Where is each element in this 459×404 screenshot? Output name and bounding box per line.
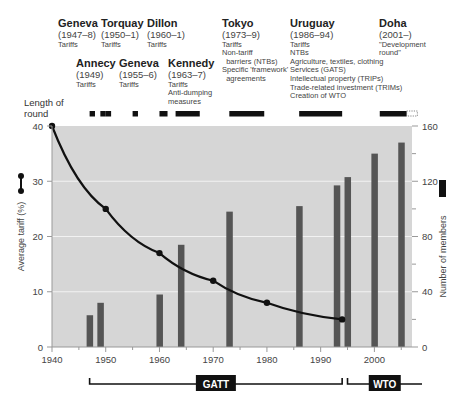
round-length-bar bbox=[106, 111, 111, 117]
member-bar bbox=[97, 303, 104, 347]
tariff-point bbox=[156, 250, 162, 256]
round-length-ongoing bbox=[407, 111, 418, 116]
round-length-bar bbox=[159, 111, 167, 117]
round-length-bar bbox=[229, 111, 264, 117]
member-bar bbox=[398, 143, 405, 347]
right-tick-label: 40 bbox=[422, 286, 433, 297]
member-bar bbox=[87, 315, 94, 347]
member-bar bbox=[296, 206, 303, 347]
tariff-legend-icon-dot bbox=[18, 188, 24, 194]
x-tick-label: 1990 bbox=[310, 354, 331, 365]
x-tick-label: 1970 bbox=[203, 354, 224, 365]
tariff-point bbox=[210, 278, 216, 284]
left-tick-label: 40 bbox=[32, 121, 43, 132]
x-tick-label: 1960 bbox=[149, 354, 170, 365]
tariff-point bbox=[103, 206, 109, 212]
org-label-wto: WTO bbox=[373, 379, 396, 390]
right-axis-title: Number of members bbox=[438, 215, 448, 298]
tariff-point bbox=[339, 316, 345, 322]
x-tick-label: 1940 bbox=[41, 354, 62, 365]
members-legend-icon bbox=[439, 180, 446, 197]
tariff-point bbox=[264, 300, 270, 306]
right-tick-label: 160 bbox=[422, 121, 438, 132]
member-bar bbox=[345, 177, 352, 347]
x-tick-label: 1950 bbox=[95, 354, 116, 365]
left-tick-label: 30 bbox=[32, 176, 43, 187]
left-axis-title: Average tariff (%) bbox=[16, 202, 26, 272]
right-tick-label: 80 bbox=[422, 231, 433, 242]
round-length-bar bbox=[176, 111, 200, 117]
x-tick-label: 2000 bbox=[364, 354, 385, 365]
left-tick-label: 20 bbox=[32, 231, 43, 242]
left-tick-label: 0 bbox=[38, 342, 43, 353]
round-length-bar bbox=[299, 111, 342, 117]
round-length-bar bbox=[90, 111, 95, 117]
tariff-legend-icon-dot bbox=[18, 173, 24, 179]
member-bar bbox=[178, 245, 185, 347]
org-label-gatt: GATT bbox=[203, 379, 229, 390]
right-tick-label: 0 bbox=[422, 342, 427, 353]
x-tick-label: 1980 bbox=[256, 354, 277, 365]
tariff-membership-chart: 0102030400408012016019401950196019701980… bbox=[0, 0, 459, 404]
right-tick-label: 120 bbox=[422, 176, 438, 187]
left-tick-label: 10 bbox=[32, 286, 43, 297]
round-length-bar bbox=[380, 111, 407, 117]
round-length-bar bbox=[133, 111, 138, 117]
member-bar bbox=[156, 295, 163, 347]
member-bar bbox=[334, 185, 341, 347]
round-length-bar bbox=[100, 111, 105, 117]
member-bar bbox=[226, 212, 233, 347]
member-bar bbox=[371, 154, 378, 347]
